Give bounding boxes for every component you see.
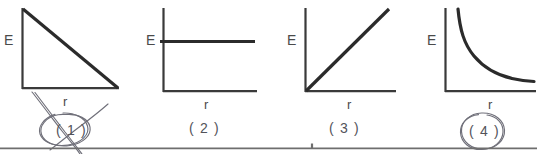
panel-4-graph (445, 8, 536, 92)
panel-3-curve-linear-increasing (306, 9, 389, 91)
panel-1-curve-linear-decreasing (23, 9, 118, 88)
panel-4-curve-inverse-decay (458, 9, 534, 82)
panel-2-graph (160, 8, 257, 92)
panel-3-x-axis-label: r (347, 98, 351, 111)
panel-2-y-axis-label: E (146, 33, 155, 47)
panel-4-y-axis-label: E (427, 33, 436, 47)
figure-canvas: E r ( 1 ) E r ( 2 ) E r ( 3 ) E r ( 4 ) (0, 0, 537, 154)
footer-rule-group (0, 144, 537, 149)
panel-1-x-axis-label: r (63, 95, 67, 108)
panel-2-x-axis-label: r (204, 98, 208, 111)
panel-3-graph (305, 8, 396, 92)
panel-2-caption: ( 2 ) (189, 121, 220, 135)
panel-3-y-axis-label: E (287, 33, 296, 47)
panel-1-graph (22, 8, 119, 89)
panel-3-caption: ( 3 ) (329, 121, 360, 135)
panel-4-x-axis-label: r (488, 98, 492, 111)
panel-4-caption: ( 4 ) (469, 124, 500, 138)
panel-1-caption: ( 1 ) (56, 123, 87, 137)
panel-1-y-axis-label: E (4, 33, 13, 47)
